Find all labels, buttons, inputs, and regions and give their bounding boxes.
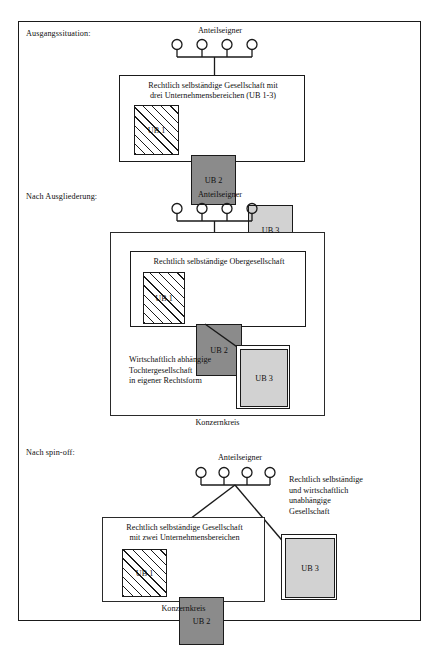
unit-label: UB 2 [205, 176, 223, 185]
owners-label-panel-1: Anteilseigner [168, 26, 272, 35]
shareholder-circle [247, 40, 257, 50]
shareholder-circle [242, 468, 252, 478]
shareholder-circle [222, 204, 232, 214]
stage-label-nach-ausgliederung: Nach Ausgliederung: [26, 192, 97, 201]
group-label-panel-3: Konzernkreis [102, 604, 265, 613]
shareholder-circle [219, 468, 229, 478]
unit-label: UB 1 [136, 569, 154, 578]
shareholder-circle [265, 468, 275, 478]
shareholder-circle [197, 204, 207, 214]
parent-company-caption-panel-2: Rechtlich selbständige Obergesellschaft [131, 257, 307, 267]
shareholder-circle [172, 204, 182, 214]
unit-label: UB 3 [262, 226, 280, 235]
company-caption-panel-3: Rechtlich selbständige Gesellschaft mit … [103, 523, 266, 544]
unit-label: UB 2 [210, 346, 228, 355]
stage-label-ausgangssituation: Ausgangssituation: [26, 29, 91, 38]
unit-box-ub3-panel-3: UB 3 [285, 538, 335, 598]
unit-box-ub3-panel-2: UB 3 [240, 349, 288, 407]
shareholder-circle [222, 40, 232, 50]
unit-label: UB 1 [148, 126, 166, 135]
unit-label: UB 3 [301, 564, 319, 573]
group-label-panel-2: Konzernkreis [110, 418, 325, 427]
subsidiary-outer-box-panel-2: UB 3 [236, 345, 290, 409]
shareholder-circle [196, 468, 206, 478]
unit-box-ub1-panel-2: UB 1 [143, 272, 185, 324]
owners-label-panel-3: Anteilseigner [188, 453, 292, 462]
unit-label: UB 2 [193, 617, 211, 626]
shareholder-circle [172, 40, 182, 50]
parent-company-box-panel-2: Rechtlich selbständige Obergesellschaft … [130, 251, 306, 327]
shareholders-comb-panel-1 [168, 38, 274, 76]
shareholder-circle [247, 204, 257, 214]
unit-box-ub1-panel-1: UB 1 [134, 105, 179, 155]
owners-label-panel-2: Anteilseigner [168, 190, 272, 199]
independent-outer-box-panel-3: UB 3 [281, 534, 337, 600]
unit-box-ub1-panel-3: UB 1 [122, 549, 167, 597]
company-box-panel-1: Rechtlich selbständige Gesellschaft mit … [119, 75, 305, 162]
company-caption-panel-1: Rechtlich selbständige Gesellschaft mit … [120, 81, 306, 102]
figure-canvas: Ausgangssituation: Anteilseigner Rechtli… [0, 0, 441, 646]
group-box-panel-3: Rechtlich selbständige Gesellschaft mit … [102, 517, 265, 602]
subsidiary-caption-panel-2: Wirtschaftlich abhängige Tochtergesellsc… [129, 355, 234, 387]
unit-label: UB 1 [155, 294, 173, 303]
shareholder-circle [197, 40, 207, 50]
unit-label: UB 3 [255, 374, 273, 383]
independent-company-caption-panel-3: Rechtlich selbständige und wirtschaftlic… [289, 475, 407, 517]
stage-label-nach-spin-off: Nach spin-off: [26, 448, 75, 457]
